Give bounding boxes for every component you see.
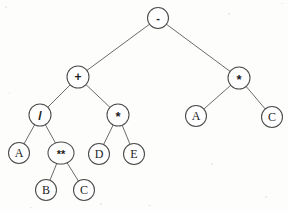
scan-speck-6 [148, 205, 151, 206]
tree-node-n3[interactable]: / [29, 104, 51, 126]
edge-divide-to-a [24, 125, 35, 144]
scan-speck-9 [100, 203, 102, 205]
edge-minus-to-times-right [166, 24, 230, 71]
scan-speck-7 [30, 207, 32, 208]
tree-node-n6[interactable]: C [262, 107, 283, 128]
node-circle-n8 [48, 142, 74, 164]
tree-node-n9[interactable]: D [89, 144, 110, 165]
tree-node-n2[interactable]: * [228, 67, 250, 89]
scan-speck-4 [211, 163, 213, 165]
tree-canvas: -+*/*ACA**DEBC [0, 0, 288, 211]
node-layer: -+*/*ACA**DEBC [9, 8, 283, 201]
tree-node-n12[interactable]: C [74, 180, 95, 201]
scan-speck-1 [281, 3, 283, 4]
scan-speck-5 [265, 196, 267, 198]
node-circle-n5 [186, 106, 207, 127]
edge-power-to-c [67, 163, 78, 181]
node-circle-n3 [29, 104, 51, 126]
tree-node-n5[interactable]: A [186, 106, 207, 127]
edge-plus-to-times-mid [86, 85, 110, 108]
edge-plus-to-divide [48, 85, 70, 107]
tree-node-n4[interactable]: * [107, 104, 129, 126]
scan-speck-2 [228, 13, 230, 15]
edge-minus-to-plus [87, 24, 150, 70]
node-circle-n12 [74, 180, 95, 201]
scan-speck-8 [190, 44, 191, 45]
expression-tree-diagram: -+*/*ACA**DEBC [0, 0, 288, 211]
node-circle-n4 [107, 104, 129, 126]
edge-divide-to-power [45, 125, 55, 143]
node-circle-n9 [89, 144, 110, 165]
scan-speck-3 [9, 92, 10, 94]
edge-times-mid-to-d [104, 125, 114, 145]
node-circle-n11 [36, 180, 57, 201]
edge-times-right-to-c [246, 86, 265, 109]
node-circle-n2 [228, 67, 250, 89]
node-circle-n7 [9, 143, 30, 164]
tree-node-n0[interactable]: - [148, 8, 169, 29]
node-circle-n0 [148, 8, 169, 29]
tree-node-n1[interactable]: + [67, 66, 89, 88]
edge-times-mid-to-e [122, 125, 130, 144]
tree-node-n7[interactable]: A [9, 143, 30, 164]
edge-power-to-b [50, 163, 57, 180]
node-circle-n6 [262, 107, 283, 128]
scan-speck-0 [5, 6, 7, 8]
node-circle-n1 [67, 66, 89, 88]
tree-node-n11[interactable]: B [36, 180, 57, 201]
edge-times-right-to-a [204, 85, 231, 109]
node-circle-n10 [124, 144, 145, 165]
tree-node-n8[interactable]: ** [48, 142, 74, 164]
tree-node-n10[interactable]: E [124, 144, 145, 165]
